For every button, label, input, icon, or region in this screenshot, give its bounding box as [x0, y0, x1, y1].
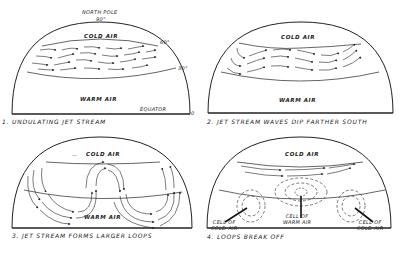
- caption: 2. JET STREAM WAVES DIP FARTHER SOUTH: [207, 119, 367, 125]
- panel-larger-loops: — COLD AIR WARM AIR 3. JET STREAM FORMS …: [0, 128, 201, 255]
- caption: 1. UNDULATING JET STREAM: [2, 119, 106, 125]
- panel-loops-break-off: COLD AIR CELL OF COLD AIR CELL OF WARM A…: [201, 128, 402, 255]
- hemisphere-diagram-2: [201, 0, 402, 127]
- panel-waves-dip-south: COLD AIR WARM AIR 2. JET STREAM WAVES DI…: [201, 0, 402, 127]
- warm-air-label: WARM AIR: [80, 97, 117, 103]
- caption: 3. JET STREAM FORMS LARGER LOOPS: [12, 233, 152, 239]
- cold-air-label: COLD AIR: [84, 34, 118, 40]
- panel-undulating-jet-stream: NORTH POLE 90° COLD AIR 60° 30° WARM AIR…: [0, 0, 201, 127]
- cold-air-label: COLD AIR: [281, 35, 315, 41]
- pole-degree-label: 90°: [96, 17, 106, 22]
- lat-60-label: 60°: [160, 40, 170, 45]
- cell-of-cold-air-left-label: CELL OF COLD AIR: [211, 220, 237, 231]
- lat-30-label: 30°: [178, 66, 188, 71]
- equator-label: EQUATOR: [140, 107, 166, 112]
- north-pole-label: NORTH POLE: [82, 10, 117, 15]
- warm-air-label: WARM AIR: [279, 98, 316, 104]
- cell-of-warm-air-label: CELL OF WARM AIR: [283, 214, 311, 225]
- cell-of-cold-air-right-label: CELL OF COLD AIR: [357, 220, 383, 231]
- dash-mark: —: [72, 153, 77, 158]
- caption: 4. LOOPS BREAK OFF: [207, 234, 285, 240]
- lat-0-label: 0: [191, 111, 194, 116]
- cold-air-label: COLD AIR: [285, 152, 319, 158]
- cold-air-label: COLD AIR: [86, 152, 120, 158]
- warm-air-label: WARM AIR: [84, 215, 121, 221]
